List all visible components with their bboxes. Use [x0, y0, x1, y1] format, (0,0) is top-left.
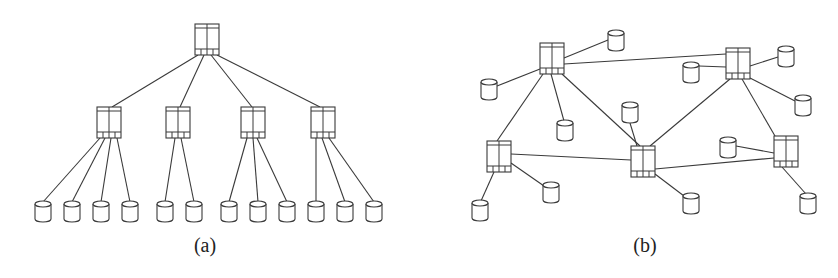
storage-cylinder-icon [64, 201, 80, 222]
switch-link-a-root-a-s4 [217, 55, 320, 107]
switch-link-b-s1-b-s3 [497, 74, 543, 141]
storage-cylinder-icon [308, 201, 324, 222]
storage-cylinder-icon [472, 200, 488, 221]
storage-link-a-d8 [253, 138, 258, 202]
storage-cylinder-icon [157, 201, 173, 222]
storage-link-a-d12 [329, 138, 374, 202]
network-switch-icon [311, 107, 335, 138]
storage-cylinder-icon [683, 62, 699, 83]
network-switch-icon [97, 107, 121, 138]
switch-link-b-s1-b-s2 [564, 54, 726, 64]
storage-cylinder-icon [608, 30, 624, 51]
network-switch-icon [631, 146, 655, 177]
network-switch-icon [166, 107, 190, 138]
storage-link-a-d6 [181, 138, 194, 202]
storage-cylinder-icon [720, 137, 736, 158]
storage-link-a-d9 [257, 138, 287, 202]
storage-cylinder-icon [250, 201, 266, 222]
switch-link-a-root-a-s2 [180, 55, 204, 107]
storage-link-a-d11 [322, 138, 345, 202]
storage-cylinder-icon [366, 201, 382, 222]
storage-link-b-d3 [551, 74, 564, 121]
storage-cylinder-icon [795, 95, 811, 116]
storage-link-b-d9 [630, 123, 637, 146]
network-switch-icon [726, 48, 750, 79]
storage-link-b-d2 [497, 69, 540, 86]
switch-link-b-s2-b-s4 [650, 79, 730, 146]
storage-link-a-d7 [229, 138, 247, 202]
nodes-layer [35, 24, 816, 222]
storage-link-b-d6 [750, 78, 795, 101]
storage-link-a-d5 [165, 138, 175, 202]
network-switch-icon [540, 43, 564, 74]
storage-cylinder-icon [35, 201, 51, 222]
network-topology-figure: (a) (b) [0, 0, 838, 278]
storage-link-b-d10 [655, 174, 684, 196]
storage-link-b-d1 [564, 40, 608, 58]
storage-cylinder-icon [800, 193, 816, 214]
storage-link-b-d12 [782, 167, 806, 194]
storage-link-a-d1 [43, 138, 100, 202]
storage-link-b-d4 [699, 66, 726, 67]
storage-cylinder-icon [543, 182, 559, 203]
switch-link-b-s4-b-s5 [655, 158, 774, 169]
storage-link-a-d3 [101, 138, 111, 202]
caption-b: (b) [633, 234, 656, 257]
network-switch-icon [241, 107, 265, 138]
storage-link-b-d5 [750, 57, 778, 66]
network-switch-icon [487, 141, 511, 172]
storage-cylinder-icon [279, 201, 295, 222]
storage-cylinder-icon [122, 201, 138, 222]
storage-cylinder-icon [337, 201, 353, 222]
switch-link-b-s3-b-s4 [511, 154, 631, 160]
storage-link-b-d11 [736, 146, 774, 153]
caption-a: (a) [194, 234, 216, 257]
storage-link-b-d8 [511, 163, 544, 186]
switch-link-b-s2-b-s5 [742, 79, 775, 136]
storage-cylinder-icon [683, 193, 699, 214]
storage-cylinder-icon [93, 201, 109, 222]
switch-link-a-root-a-s1 [112, 55, 198, 107]
storage-cylinder-icon [481, 79, 497, 100]
storage-cylinder-icon [622, 102, 638, 123]
storage-link-a-d2 [72, 138, 105, 202]
storage-cylinder-icon [778, 46, 794, 67]
storage-cylinder-icon [557, 120, 573, 141]
network-switch-icon [774, 136, 798, 167]
storage-link-b-d7 [481, 172, 494, 201]
storage-cylinder-icon [186, 201, 202, 222]
storage-cylinder-icon [221, 201, 237, 222]
network-switch-icon [195, 24, 219, 55]
storage-link-a-d4 [117, 138, 130, 202]
